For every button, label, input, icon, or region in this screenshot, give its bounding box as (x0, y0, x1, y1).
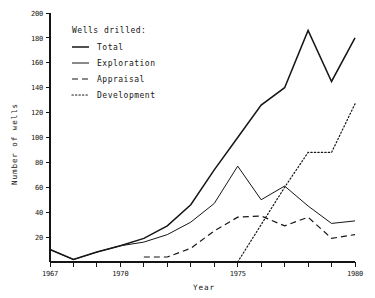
y-tick-label: 180 (31, 35, 43, 43)
y-tick-label: 80 (35, 159, 43, 167)
line-chart: 20406080100120140160180200 1967197019751… (0, 0, 375, 298)
y-axis: 20406080100120140160180200 (31, 10, 50, 262)
y-tick-label: 20 (35, 234, 43, 242)
x-tick-label: 1980 (347, 270, 363, 278)
y-tick-label: 40 (35, 209, 43, 217)
series-line-total (50, 30, 355, 259)
legend-label-appraisal: Appraisal (97, 75, 145, 84)
legend-label-total: Total (97, 43, 124, 52)
y-tick-label: 140 (31, 84, 43, 92)
legend-title: Wells drilled: (72, 26, 146, 35)
y-tick-label: 200 (31, 10, 43, 18)
legend-label-exploration: Exploration (97, 59, 155, 68)
x-tick-label: 1970 (112, 270, 128, 278)
legend-label-development: Development (97, 91, 155, 100)
y-tick-label: 100 (31, 134, 43, 142)
data-series-group (50, 30, 355, 262)
series-line-exploration (50, 166, 355, 259)
y-axis-title: Number of wells (10, 103, 19, 185)
x-tick-label: 1975 (230, 270, 246, 278)
chart-legend: Wells drilled:TotalExplorationAppraisalD… (72, 26, 155, 100)
y-tick-label: 160 (31, 59, 43, 67)
series-line-appraisal (144, 216, 355, 257)
chart-figure: 20406080100120140160180200 1967197019751… (0, 0, 375, 298)
y-tick-label: 120 (31, 109, 43, 117)
x-tick-label: 1967 (42, 270, 58, 278)
x-axis-title: Year (193, 283, 215, 292)
x-axis: 1967197019751980 (42, 262, 363, 278)
y-tick-label: 60 (35, 184, 43, 192)
series-line-development (238, 104, 355, 262)
